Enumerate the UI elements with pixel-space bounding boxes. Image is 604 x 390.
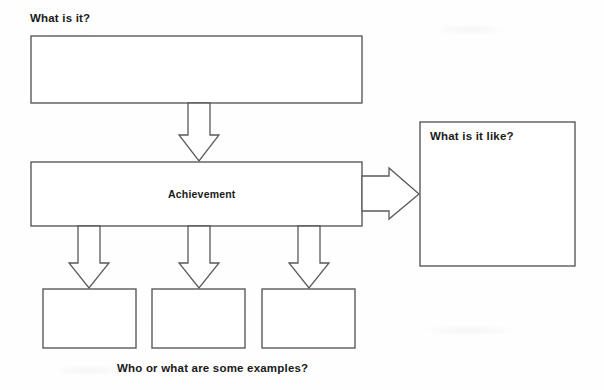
arrow-concept-to-example-2	[179, 226, 219, 288]
arrow-concept-to-example-1	[69, 226, 109, 288]
example-box-3[interactable]	[262, 289, 355, 348]
arrow-concept-to-like	[362, 168, 419, 219]
like-box[interactable]	[420, 122, 575, 266]
arrow-definition-to-concept	[179, 103, 219, 161]
arrow-concept-to-example-3	[289, 226, 329, 288]
examples-caption-label: Who or what are some examples?	[117, 362, 308, 374]
example-box-2[interactable]	[152, 289, 245, 348]
like-prompt-label: What is it like?	[430, 130, 514, 142]
concept-label: Achievement	[168, 188, 236, 200]
diagram-shapes	[0, 0, 604, 390]
diagram-canvas: What is it? Achievement What is it like?…	[0, 0, 604, 390]
definition-prompt-label: What is it?	[30, 12, 90, 24]
example-box-1[interactable]	[43, 289, 136, 348]
definition-box[interactable]	[31, 36, 362, 103]
